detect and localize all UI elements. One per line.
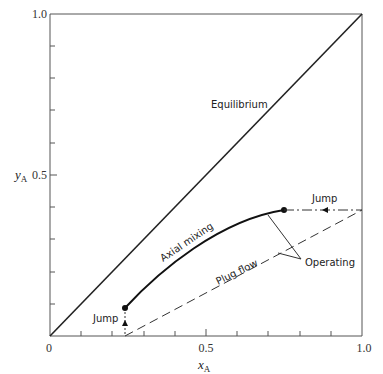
x-ticks (81, 329, 331, 336)
operating-leader-1 (268, 215, 301, 259)
jump-top-label: Jump (311, 193, 337, 204)
equilibrium-line (50, 14, 362, 336)
operating-label: Operating (305, 257, 355, 268)
axial-mixing-label: Axial mixing (158, 220, 215, 264)
y-tick-1.0: 1.0 (32, 7, 47, 21)
y-tick-0.5: 0.5 (32, 168, 47, 182)
jump-bottom-label: Jump (92, 313, 118, 324)
y-axis-title: yA (13, 167, 28, 184)
jump-top-arrow-icon (322, 207, 328, 213)
x-tick-0.5: 0.5 (199, 341, 214, 355)
plug-flow-label: Plug flow (214, 257, 260, 287)
x-tick-1.0: 1.0 (357, 341, 372, 355)
jump-bottom-arrow-icon (122, 320, 128, 326)
x-axis-title: xA (197, 357, 211, 374)
x-tick-0: 0 (46, 341, 52, 355)
equilibrium-label: Equilibrium (211, 99, 268, 110)
y-ticks (50, 46, 57, 304)
chart: 1.0 0.5 0 0.5 1.0 yA xA Equilibrium Plug… (0, 0, 383, 374)
curve-start-point (122, 305, 128, 311)
